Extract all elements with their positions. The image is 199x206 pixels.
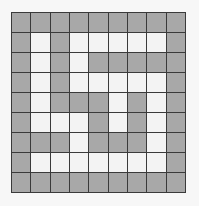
wall-cell <box>12 153 30 172</box>
wall-cell <box>89 133 107 152</box>
path-cell[interactable] <box>31 153 49 172</box>
wall-cell <box>147 173 165 192</box>
path-cell[interactable] <box>109 73 127 92</box>
wall-cell <box>89 173 107 192</box>
path-cell[interactable] <box>147 33 165 52</box>
path-cell[interactable] <box>70 33 88 52</box>
path-cell[interactable] <box>70 53 88 72</box>
wall-cell <box>51 13 69 32</box>
wall-cell <box>167 113 185 132</box>
path-cell[interactable] <box>109 33 127 52</box>
wall-cell <box>12 13 30 32</box>
path-cell[interactable] <box>147 73 165 92</box>
wall-cell <box>12 173 30 192</box>
wall-cell <box>31 173 49 192</box>
path-cell[interactable] <box>128 153 146 172</box>
path-cell[interactable] <box>70 73 88 92</box>
path-cell[interactable] <box>128 33 146 52</box>
wall-cell <box>89 93 107 112</box>
wall-cell <box>167 53 185 72</box>
wall-cell <box>31 13 49 32</box>
path-cell[interactable] <box>70 153 88 172</box>
wall-cell <box>12 113 30 132</box>
wall-cell <box>167 93 185 112</box>
path-cell[interactable] <box>89 73 107 92</box>
path-cell[interactable] <box>128 73 146 92</box>
wall-cell <box>128 173 146 192</box>
wall-cell <box>51 133 69 152</box>
path-cell[interactable] <box>89 33 107 52</box>
wall-cell <box>70 13 88 32</box>
wall-cell <box>109 53 127 72</box>
path-cell[interactable] <box>31 53 49 72</box>
wall-cell <box>109 13 127 32</box>
path-cell[interactable] <box>109 113 127 132</box>
wall-cell <box>167 133 185 152</box>
wall-cell <box>167 73 185 92</box>
path-cell[interactable] <box>31 113 49 132</box>
wall-cell <box>70 93 88 112</box>
wall-cell <box>12 33 30 52</box>
path-cell[interactable] <box>31 73 49 92</box>
wall-cell <box>167 33 185 52</box>
wall-cell <box>109 133 127 152</box>
path-cell[interactable] <box>89 153 107 172</box>
path-cell[interactable] <box>31 33 49 52</box>
wall-cell <box>128 53 146 72</box>
wall-cell <box>12 53 30 72</box>
wall-cell <box>89 113 107 132</box>
wall-cell <box>51 173 69 192</box>
wall-cell <box>31 133 49 152</box>
wall-cell <box>12 133 30 152</box>
wall-cell <box>51 53 69 72</box>
path-cell[interactable] <box>147 93 165 112</box>
wall-cell <box>128 13 146 32</box>
wall-cell <box>128 93 146 112</box>
path-cell[interactable] <box>51 153 69 172</box>
wall-cell <box>51 33 69 52</box>
wall-cell <box>89 13 107 32</box>
wall-cell <box>51 93 69 112</box>
path-cell[interactable] <box>147 133 165 152</box>
path-cell[interactable] <box>31 93 49 112</box>
wall-cell <box>167 13 185 32</box>
wall-cell <box>167 173 185 192</box>
path-cell[interactable] <box>147 113 165 132</box>
wall-cell <box>128 133 146 152</box>
path-cell[interactable] <box>51 113 69 132</box>
wall-cell <box>89 53 107 72</box>
wall-cell <box>70 173 88 192</box>
wall-cell <box>167 153 185 172</box>
path-cell[interactable] <box>70 113 88 132</box>
wall-cell <box>147 13 165 32</box>
wall-cell <box>12 93 30 112</box>
path-cell[interactable] <box>109 153 127 172</box>
wall-cell <box>51 73 69 92</box>
wall-cell <box>128 113 146 132</box>
wall-cell <box>109 173 127 192</box>
path-cell[interactable] <box>147 153 165 172</box>
wall-cell <box>12 73 30 92</box>
maze-grid <box>11 12 186 193</box>
path-cell[interactable] <box>70 133 88 152</box>
path-cell[interactable] <box>109 93 127 112</box>
wall-cell <box>147 53 165 72</box>
